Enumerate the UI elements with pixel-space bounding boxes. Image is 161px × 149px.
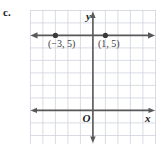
part-label: c.: [3, 7, 11, 18]
coordinate-graph-figure: c.: [0, 0, 161, 149]
coordinate-plane-svg: (−3, 5) (1, 5) O y x: [30, 10, 156, 144]
graph-plot-area: (−3, 5) (1, 5) O y x: [30, 10, 156, 144]
x-axis-label: x: [144, 112, 151, 124]
point-label-1-5: (1, 5): [98, 38, 120, 50]
origin-label: O: [83, 112, 91, 124]
y-axis-label: y: [84, 10, 91, 22]
point-label-neg3-5: (−3, 5): [48, 38, 75, 50]
